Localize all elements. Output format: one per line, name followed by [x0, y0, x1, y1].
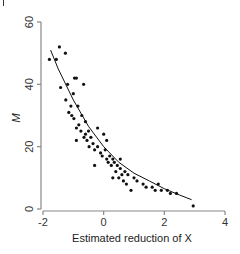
data-point: [88, 145, 91, 148]
data-point: [169, 192, 172, 195]
data-point: [157, 183, 160, 186]
data-point: [175, 192, 178, 195]
data-point: [85, 139, 88, 142]
data-point: [113, 161, 116, 164]
data-point: [75, 126, 78, 129]
data-point: [105, 139, 108, 142]
data-point: [151, 186, 154, 189]
data-point: [89, 136, 92, 139]
data-point: [72, 92, 75, 95]
data-point: [110, 164, 113, 167]
data-point: [166, 189, 169, 192]
fit-curve: [51, 50, 192, 200]
data-point: [132, 176, 135, 179]
y-tick-label: 20: [23, 141, 35, 153]
data-point: [154, 189, 157, 192]
data-point: [67, 111, 70, 114]
data-point: [76, 105, 79, 108]
data-point: [82, 83, 85, 86]
data-point: [116, 164, 119, 167]
data-point: [91, 142, 94, 145]
data-point: [96, 126, 99, 129]
x-axis-label: Estimated reduction of X: [72, 232, 193, 244]
data-point: [84, 133, 87, 136]
data-point: [123, 170, 126, 173]
data-point: [72, 117, 75, 120]
data-point: [160, 189, 163, 192]
data-point: [70, 114, 73, 117]
data-point: [142, 183, 145, 186]
data-point: [82, 136, 85, 139]
axes: 0204060-2024: [23, 16, 228, 228]
data-point: [79, 130, 82, 133]
data-point: [75, 77, 78, 80]
data-point: [93, 164, 96, 167]
data-point: [69, 105, 72, 108]
scatter-chart: 0204060-2024 Estimated reduction of X M: [0, 0, 240, 254]
y-axis-label: M: [10, 113, 22, 123]
x-tick-label: 4: [222, 216, 228, 228]
data-point: [99, 151, 102, 154]
data-point: [96, 145, 99, 148]
y-tick-label: 60: [23, 16, 35, 28]
fit-curve-line: [51, 50, 192, 200]
data-point: [75, 139, 78, 142]
data-point: [119, 158, 122, 161]
data-point: [126, 173, 129, 176]
data-point: [119, 167, 122, 170]
data-point: [77, 123, 80, 126]
x-tick-label: 0: [101, 216, 107, 228]
data-point: [84, 120, 87, 123]
data-point: [66, 83, 69, 86]
data-point: [101, 154, 104, 157]
data-point: [111, 176, 114, 179]
data-point: [122, 179, 125, 182]
data-point: [93, 148, 96, 151]
x-tick-label: 2: [161, 216, 167, 228]
data-point: [64, 98, 67, 101]
data-point: [120, 173, 123, 176]
data-point: [80, 114, 83, 117]
data-point: [58, 45, 61, 48]
data-point: [64, 52, 67, 55]
y-tick-label: 0: [23, 206, 35, 212]
data-point: [87, 130, 90, 133]
data-point: [59, 86, 62, 89]
data-point: [102, 133, 105, 136]
data-point: [48, 58, 51, 61]
data-point: [129, 189, 132, 192]
y-tick-label: 40: [23, 78, 35, 90]
data-point: [105, 158, 108, 161]
data-point: [111, 158, 114, 161]
data-point: [104, 148, 107, 151]
data-point: [117, 176, 120, 179]
data-point: [135, 179, 138, 182]
data-point: [192, 204, 195, 207]
data-point: [145, 186, 148, 189]
x-tick-label: -2: [38, 216, 48, 228]
data-points: [48, 45, 195, 207]
data-point: [114, 170, 117, 173]
data-point: [107, 161, 110, 164]
data-point: [108, 154, 111, 157]
data-point: [55, 58, 58, 61]
data-point: [125, 183, 128, 186]
